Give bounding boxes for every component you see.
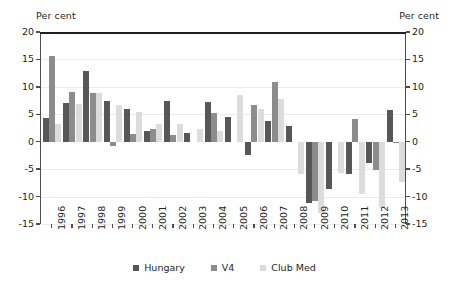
legend-item-v4[interactable]: V4: [211, 262, 235, 273]
left-y-tick-label: -15: [18, 219, 34, 229]
legend-swatch-icon: [260, 265, 266, 271]
bar-hungary-2006: [245, 142, 251, 156]
bar-hungary-2005: [225, 117, 231, 142]
right-y-tick: [406, 114, 410, 115]
legend-swatch-icon: [133, 265, 139, 271]
legend-label: V4: [222, 262, 235, 273]
x-tick-label-2006: 2006: [258, 206, 269, 230]
right-y-tick: [406, 31, 410, 32]
bar-group: [102, 32, 122, 224]
x-tick: [375, 224, 376, 228]
right-y-tick: [406, 141, 410, 142]
x-tick-label-2001: 2001: [157, 206, 168, 230]
x-tick-label-2013: 2013: [399, 206, 410, 230]
x-tick-label-1999: 1999: [116, 206, 127, 230]
x-tick: [71, 224, 72, 228]
bar-group: [243, 32, 263, 224]
left-y-tick: [36, 168, 40, 169]
x-tick: [92, 224, 93, 228]
bar-hungary-2010: [326, 142, 332, 189]
bar-group: [61, 32, 81, 224]
left-y-tick-label: 0: [28, 137, 34, 147]
left-y-tick: [36, 196, 40, 197]
x-tick: [172, 224, 173, 228]
bar-group: [41, 32, 61, 224]
right-y-tick-label: -5: [412, 164, 421, 174]
bar-v4-1996: [49, 56, 55, 142]
x-tick-label-2011: 2011: [359, 206, 370, 230]
bar-hungary-2012: [366, 142, 372, 163]
bar-group: [344, 32, 364, 224]
plot-area: [41, 32, 405, 224]
x-tick-label-2012: 2012: [379, 206, 390, 230]
x-tick-label-2007: 2007: [278, 206, 289, 230]
bar-hungary-2009: [306, 142, 312, 203]
x-tick: [51, 224, 52, 228]
legend-swatch-icon: [211, 265, 217, 271]
right-y-tick-label: 0: [412, 137, 418, 147]
bar-hungary-2008: [286, 126, 292, 141]
bar-v4-2011: [352, 119, 358, 142]
bar-group: [385, 32, 405, 224]
bar-group: [122, 32, 142, 224]
left-y-tick-label: -10: [18, 192, 34, 202]
x-tick: [193, 224, 194, 228]
bar-group: [263, 32, 283, 224]
bar-group: [284, 32, 304, 224]
bar-v4-2013: [393, 142, 399, 144]
x-tick-label-2003: 2003: [197, 206, 208, 230]
x-tick-label-2002: 2002: [177, 206, 188, 230]
zero-line: [40, 32, 406, 34]
left-y-tick-label: 20: [22, 27, 34, 37]
x-tick: [152, 224, 153, 228]
left-axis-spine: [40, 32, 41, 224]
x-tick: [314, 224, 315, 228]
x-tick: [132, 224, 133, 228]
x-tick-label-2009: 2009: [319, 206, 330, 230]
bar-v4-2004: [211, 113, 217, 142]
x-tick: [274, 224, 275, 228]
x-tick: [233, 224, 234, 228]
x-tick: [354, 224, 355, 228]
bar-hungary-2001: [144, 131, 150, 141]
bar-hungary-2000: [124, 109, 130, 141]
x-tick-label-1997: 1997: [76, 206, 87, 230]
x-tick-label-2000: 2000: [137, 206, 148, 230]
bar-group: [81, 32, 101, 224]
x-tick-label-2010: 2010: [339, 206, 350, 230]
chart-legend: HungaryV4Club Med: [0, 262, 449, 273]
right-y-tick-label: 20: [412, 27, 424, 37]
bar-group: [304, 32, 324, 224]
bar-v4-1997: [69, 92, 75, 142]
right-y-tick-label: -15: [412, 219, 428, 229]
left-y-tick-label: -5: [25, 164, 34, 174]
bar-hungary-2002: [164, 101, 170, 142]
left-axis-title: Per cent: [36, 10, 76, 21]
x-tick: [395, 224, 396, 228]
bar-group: [142, 32, 162, 224]
bar-v4-2007: [272, 82, 278, 141]
x-tick-label-2004: 2004: [217, 206, 228, 230]
legend-item-club-med[interactable]: Club Med: [260, 262, 315, 273]
bar-hungary-2003: [184, 133, 190, 141]
bar-hungary-2013: [387, 110, 393, 142]
x-tick: [294, 224, 295, 228]
x-tick: [213, 224, 214, 228]
left-y-tick-label: 5: [28, 109, 34, 119]
right-y-tick-label: 10: [412, 82, 424, 92]
bar-hungary-2011: [346, 142, 352, 174]
bar-group: [324, 32, 344, 224]
bar-v4-1999: [110, 142, 116, 146]
chart-container: Per cent Per cent 2020151510105500-5-5-1…: [0, 0, 449, 291]
left-y-tick-label: 10: [22, 82, 34, 92]
legend-item-hungary[interactable]: Hungary: [133, 262, 185, 273]
legend-label: Hungary: [144, 262, 185, 273]
bar-v4-2012: [373, 142, 379, 171]
right-y-tick: [406, 59, 410, 60]
right-y-tick: [406, 168, 410, 169]
x-tick-label-1998: 1998: [96, 206, 107, 230]
bar-group: [162, 32, 182, 224]
bar-v4-1998: [90, 93, 96, 141]
bar-group: [223, 32, 243, 224]
bar-v4-2009: [312, 142, 318, 201]
